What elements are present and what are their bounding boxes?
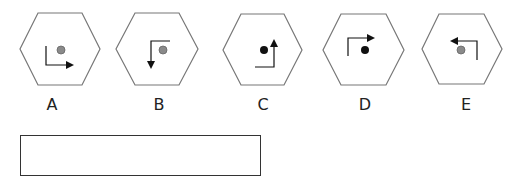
- dot-icon: [260, 46, 268, 54]
- arrow-down-icon: [151, 41, 170, 67]
- option-c-label: C: [248, 95, 278, 114]
- option-d-label: D: [350, 95, 380, 114]
- option-b-label: B: [144, 95, 174, 114]
- dot-icon: [457, 46, 465, 54]
- dot-icon: [361, 46, 369, 54]
- arrow-up-icon: [255, 41, 274, 67]
- hexagon-shape: [116, 13, 198, 85]
- dot-icon: [57, 46, 65, 54]
- arrow-right-icon: [348, 38, 373, 56]
- option-e-figure[interactable]: [422, 14, 502, 84]
- option-a-label: A: [37, 95, 67, 114]
- option-e-label: E: [451, 95, 481, 114]
- option-d-figure[interactable]: [323, 14, 404, 85]
- dot-icon: [159, 46, 167, 54]
- answer-input-box[interactable]: [20, 135, 261, 176]
- option-b-figure[interactable]: [116, 13, 198, 85]
- option-a-figure[interactable]: [20, 13, 100, 85]
- option-c-figure[interactable]: [223, 14, 302, 85]
